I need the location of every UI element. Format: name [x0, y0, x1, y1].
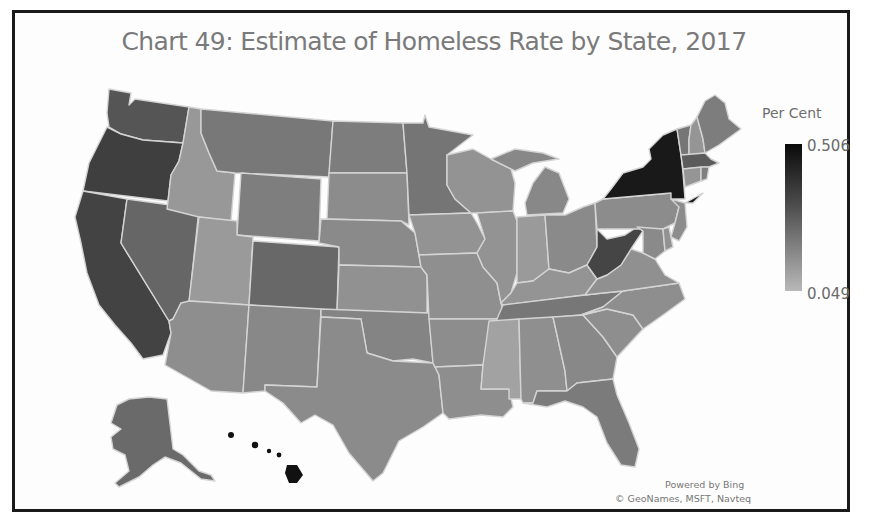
state-az: [165, 301, 249, 393]
state-nm: [243, 305, 321, 393]
us-choropleth-map: [3, 3, 883, 522]
legend-max-label: 0.506: [807, 137, 850, 155]
state-ks: [337, 265, 427, 313]
geodata-credit: © GeoNames, MSFT, Navteq: [615, 493, 751, 504]
state-de: [663, 227, 673, 251]
state-ct: [683, 167, 701, 187]
legend-color-scale: [785, 144, 802, 291]
state-hi: [228, 432, 303, 483]
state-ri: [701, 167, 709, 181]
state-ak: [111, 397, 215, 487]
state-nd: [329, 121, 407, 173]
state-sd: [327, 173, 409, 225]
state-me: [697, 95, 741, 153]
state-iq: [409, 213, 485, 255]
legend-min-label: 0.049: [807, 285, 850, 303]
legend-title: Per Cent: [762, 105, 822, 121]
chart-frame: Chart 49: Estimate of Homeless Rate by S…: [12, 10, 850, 512]
state-ms: [481, 319, 521, 399]
state-mt: [201, 109, 333, 177]
bing-credit: Powered by Bing: [665, 479, 744, 490]
state-fl: [523, 379, 639, 467]
state-co: [249, 241, 339, 311]
state-wy: [237, 173, 321, 241]
